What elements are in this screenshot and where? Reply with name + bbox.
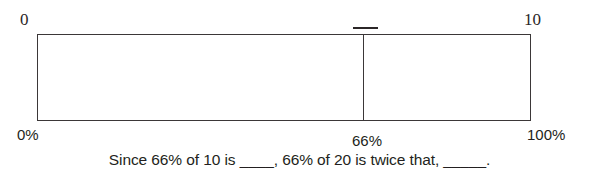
scale-label-bottom-divider: 66% — [352, 133, 382, 148]
scale-label-top-start: 0 — [20, 11, 29, 28]
bar-model-rectangle — [37, 34, 531, 121]
divider-tick-mark — [353, 27, 378, 29]
scale-label-bottom-start: 0% — [17, 127, 39, 142]
scale-label-top-end: 10 — [524, 11, 541, 28]
bar-model-diagram: 0 10 0% 66% 100% Since 66% of 10 is ____… — [0, 0, 599, 179]
bar-divider-line — [363, 35, 364, 120]
scale-label-bottom-end: 100% — [527, 127, 565, 142]
caption-sentence: Since 66% of 10 is ____, 66% of 20 is tw… — [0, 151, 599, 169]
